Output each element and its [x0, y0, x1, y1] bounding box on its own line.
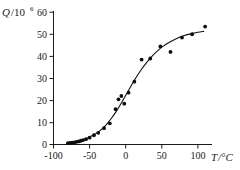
x-tick-label-0: 0	[123, 150, 128, 161]
data-point	[190, 32, 194, 36]
data-point	[122, 102, 126, 106]
data-point	[119, 94, 123, 98]
y-tick-label-60: 60	[37, 7, 47, 18]
chart-figure: 60 50 40 30 20 10 0 -100 -50 0 50 100 Q …	[0, 0, 240, 170]
data-point	[169, 50, 173, 54]
data-point	[203, 25, 207, 29]
y-tick-label-0: 0	[42, 139, 47, 150]
y-axis-label-exponent: 6	[30, 5, 34, 13]
y-axis-label-divisor: /10	[11, 6, 26, 18]
x-tick-label-50: 50	[157, 150, 167, 161]
y-tick-label-40: 40	[37, 51, 47, 62]
data-point	[88, 136, 92, 140]
x-tick-label-minus100: -100	[44, 150, 62, 161]
x-axis-label: T /°C	[211, 151, 233, 163]
data-point	[102, 126, 106, 130]
x-tick-label-minus50: -50	[83, 150, 96, 161]
y-tick-label-30: 30	[37, 73, 47, 84]
data-point	[158, 44, 162, 48]
data-point	[127, 91, 131, 95]
y-tick-label-10: 10	[37, 117, 47, 128]
data-point	[96, 131, 100, 135]
data-point	[114, 107, 118, 111]
data-point	[117, 97, 121, 101]
data-point	[92, 133, 96, 137]
data-point	[132, 80, 136, 84]
data-point	[148, 57, 152, 61]
y-tick-label-50: 50	[37, 29, 47, 40]
x-tick-label-100: 100	[190, 150, 205, 161]
x-axis-label-unit: /°C	[217, 151, 233, 163]
y-tick-label-20: 20	[37, 95, 47, 106]
data-point	[108, 121, 112, 125]
data-point	[84, 137, 88, 141]
data-point	[140, 58, 144, 62]
data-point	[180, 36, 184, 40]
y-axis-label-symbol: Q	[2, 6, 10, 18]
x-axis-label-symbol: T	[211, 151, 218, 163]
